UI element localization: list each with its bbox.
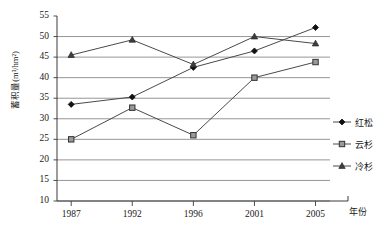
series-path — [71, 62, 315, 139]
legend-label-2: 冷杉 — [355, 160, 373, 173]
y-tick-label: 30 — [23, 114, 49, 124]
legend-label-0: 红松 — [355, 116, 373, 129]
diamond-marker — [68, 101, 74, 107]
plot-area — [0, 0, 382, 243]
x-tick-label: 2005 — [294, 210, 338, 220]
y-tick-label: 35 — [23, 93, 49, 103]
y-tick-label: 40 — [23, 73, 49, 83]
diamond-marker — [313, 25, 319, 31]
line-chart: 蓄积量(m³/hm²) 年份 55504540353025201510 1987… — [0, 0, 382, 243]
diamond-marker — [129, 94, 135, 100]
x-tick-label: 1996 — [171, 210, 215, 220]
y-tick-label: 55 — [23, 11, 49, 21]
x-tick-label: 1987 — [49, 210, 93, 220]
x-tick-label: 1992 — [110, 210, 154, 220]
series-line — [68, 33, 319, 67]
square-marker — [68, 137, 73, 142]
x-axis-title: 年份 — [349, 205, 367, 218]
series-line — [68, 59, 318, 142]
triangle-marker — [129, 36, 135, 42]
diamond-marker — [339, 119, 345, 125]
y-tick-label: 15 — [23, 175, 49, 185]
square-marker — [252, 75, 257, 80]
legend-label-1: 云杉 — [355, 138, 373, 151]
y-tick-label: 25 — [23, 134, 49, 144]
triangle-marker — [251, 33, 257, 39]
square-marker — [313, 59, 318, 64]
square-marker — [339, 141, 344, 146]
series-path — [71, 37, 315, 65]
y-tick-label: 10 — [23, 196, 49, 206]
y-tick-label: 20 — [23, 155, 49, 165]
diamond-marker — [251, 48, 257, 54]
y-tick-label: 45 — [23, 52, 49, 62]
y-axis-title: 蓄积量(m³/hm²) — [8, 36, 20, 124]
y-tick-label: 50 — [23, 32, 49, 42]
x-tick-label: 2001 — [232, 210, 276, 220]
square-marker — [130, 105, 135, 110]
square-marker — [191, 133, 196, 138]
